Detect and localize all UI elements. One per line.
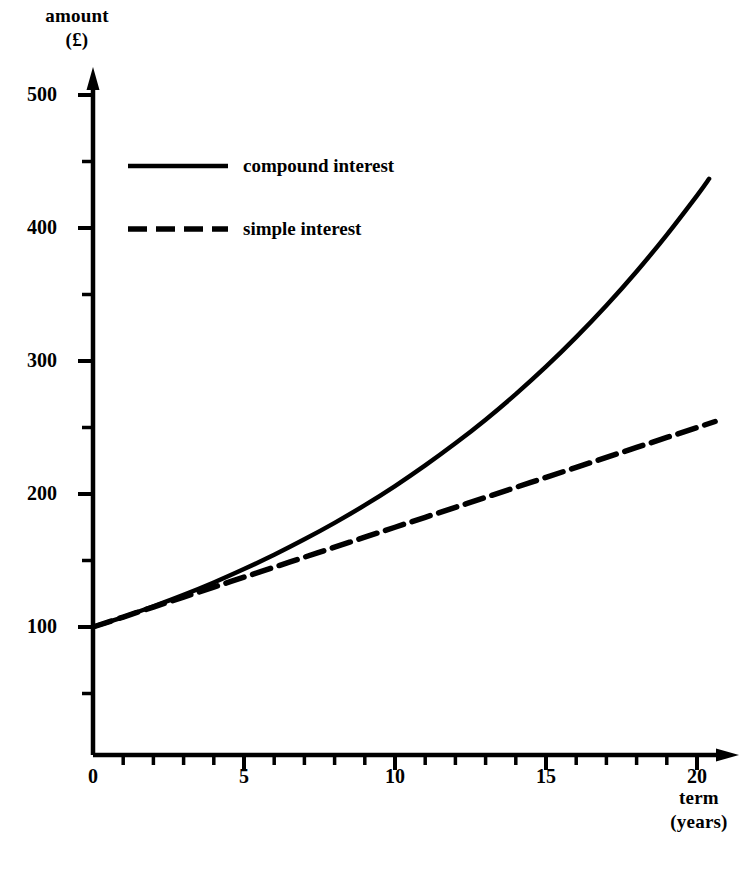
plot-canvas: [0, 0, 753, 878]
ticks-layer: [78, 95, 697, 770]
legend-swatch-layer: [128, 166, 228, 229]
interest-growth-chart: amount (£) term (years) 500 400 300 200 …: [0, 0, 753, 878]
axes-layer: [87, 67, 740, 762]
y-axis-arrowhead: [87, 67, 100, 90]
series-layer: [93, 179, 715, 627]
x-axis-arrowhead: [716, 749, 739, 762]
series-line-simple-interest: [93, 422, 715, 627]
series-line-compound-interest: [93, 179, 709, 627]
